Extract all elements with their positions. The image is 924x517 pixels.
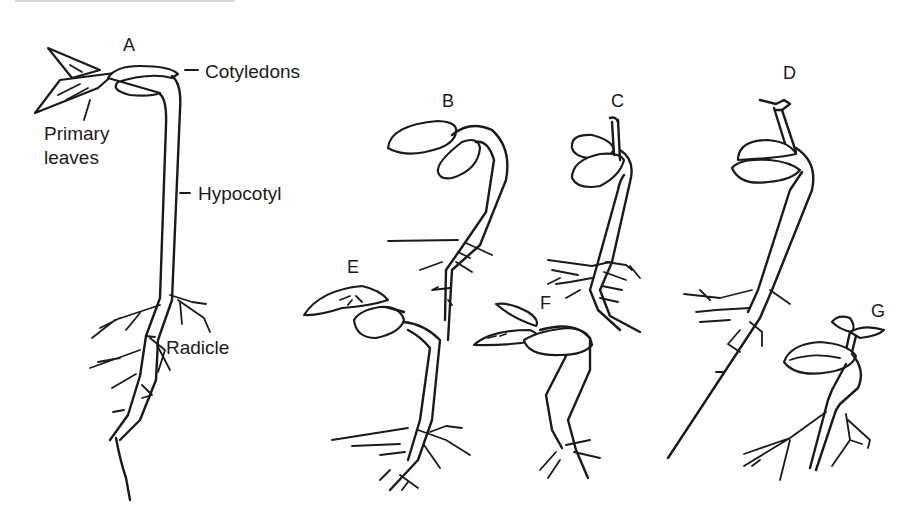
seedling-b-drawing [388, 121, 507, 340]
annotation-radicle: Radicle [166, 338, 229, 357]
seedling-label-b: B [442, 92, 454, 110]
seedling-a-drawing [35, 48, 210, 500]
annotation-cotyledons: Cotyledons [205, 62, 300, 81]
seedling-label-a: A [123, 36, 135, 54]
annotation-hypocotyl: Hypocotyl [198, 184, 281, 203]
seedling-label-c: C [611, 92, 624, 110]
annotation-primary-leaves-line1: Primary [44, 124, 109, 143]
seedling-label-d: D [783, 64, 796, 82]
seedling-label-g: G [871, 302, 885, 320]
seedling-c-drawing [548, 118, 640, 333]
annotation-primary-leaves-line2: leaves [44, 148, 99, 167]
seedling-f-drawing [474, 304, 600, 478]
seedling-label-f: F [540, 294, 551, 312]
seedling-d-drawing [668, 100, 813, 458]
seedling-label-e: E [347, 258, 359, 276]
seedling-g-drawing [744, 317, 884, 480]
